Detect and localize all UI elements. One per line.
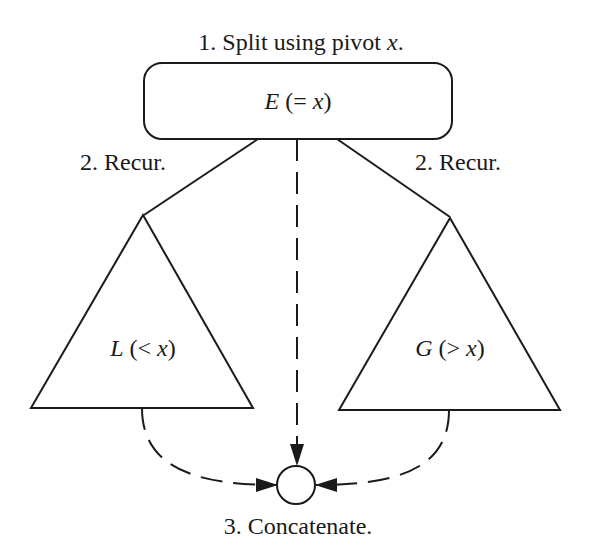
pivot-node-label: E (= x): [264, 88, 332, 114]
left-subtree-triangle: [31, 215, 253, 408]
right-recur-label: 2. Recur.: [415, 149, 501, 175]
left-concat-dashed-arrow: [142, 408, 277, 485]
right-concat-dashed-arrow: [316, 410, 449, 485]
right-subtree-label: G (> x): [415, 335, 485, 361]
split-step-label: 1. Split using pivot x.: [198, 29, 403, 55]
concat-step-label: 3. Concatenate.: [224, 513, 373, 539]
concat-node-circle: [277, 466, 315, 504]
right-subtree-triangle: [339, 218, 560, 410]
left-recur-label: 2. Recur.: [80, 149, 166, 175]
quicksort-diagram: 1. Split using pivot x. E (= x) 2. Recur…: [0, 0, 593, 558]
left-subtree-label: L (< x): [109, 335, 176, 361]
